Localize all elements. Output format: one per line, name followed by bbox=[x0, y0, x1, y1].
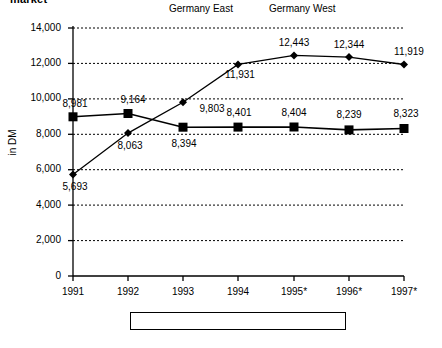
x-tick-label-1993: 1993 bbox=[157, 287, 209, 297]
x-tick-label-1996: 1996* bbox=[323, 287, 375, 297]
data-label-west-1996: 8,239 bbox=[326, 110, 372, 120]
data-label-east-1994: 11,931 bbox=[217, 70, 263, 80]
data-label-east-1996: 12,344 bbox=[326, 40, 372, 50]
legend-label-germany-east: Germany East bbox=[169, 3, 233, 14]
data-label-east-1995: 12,443 bbox=[271, 38, 317, 48]
data-label-west-1991: 8,981 bbox=[52, 99, 98, 109]
x-tick-label-1995: 1995* bbox=[268, 287, 320, 297]
data-label-east-1997: 11,919 bbox=[386, 47, 432, 57]
x-tick-label-1994: 1994 bbox=[212, 287, 264, 297]
x-tick-label-1997: 1997* bbox=[378, 287, 430, 297]
data-label-west-1994: 8,401 bbox=[216, 108, 262, 118]
x-tick-label-1992: 1992 bbox=[102, 287, 154, 297]
chart-container: market in DM 14,000 12,000 10,000 8,000 … bbox=[0, 0, 442, 348]
gridlines bbox=[73, 28, 404, 241]
data-label-west-1995: 8,404 bbox=[271, 108, 317, 118]
data-label-east-1992: 8,063 bbox=[107, 141, 153, 151]
chart-legend bbox=[130, 312, 346, 330]
y-axis-ticks bbox=[68, 28, 73, 276]
data-label-west-1993: 8,394 bbox=[161, 139, 207, 149]
data-label-west-1997: 8,323 bbox=[383, 109, 429, 119]
x-axis-ticks bbox=[73, 276, 404, 281]
data-label-east-1991: 5,693 bbox=[52, 182, 98, 192]
data-label-west-1992: 9,164 bbox=[110, 95, 156, 105]
legend-label-germany-west: Germany West bbox=[269, 3, 336, 14]
x-tick-label-1991: 1991 bbox=[47, 287, 99, 297]
